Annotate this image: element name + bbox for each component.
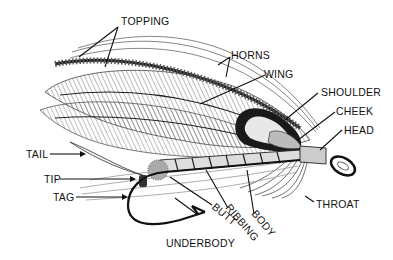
- arrowheads: [80, 151, 136, 200]
- label-head: HEAD: [344, 125, 374, 136]
- label-tail: TAIL: [26, 149, 48, 160]
- fly-illustration: [0, 0, 393, 260]
- label-underbody: UNDERBODY: [166, 238, 235, 249]
- label-tag: TAG: [53, 192, 74, 203]
- label-wing: WING: [264, 69, 293, 80]
- label-cheek: CHEEK: [336, 106, 373, 117]
- head: [300, 146, 358, 179]
- label-tip: TIP: [44, 174, 61, 185]
- label-horns: HORNS: [231, 50, 270, 61]
- label-throat: THROAT: [316, 199, 360, 210]
- butt: [148, 160, 168, 180]
- fly-anatomy-diagram: TOPPING HORNS WING SHOULDER CHEEK HEAD T…: [0, 0, 393, 260]
- label-topping: TOPPING: [121, 16, 169, 27]
- label-shoulder: SHOULDER: [321, 87, 381, 98]
